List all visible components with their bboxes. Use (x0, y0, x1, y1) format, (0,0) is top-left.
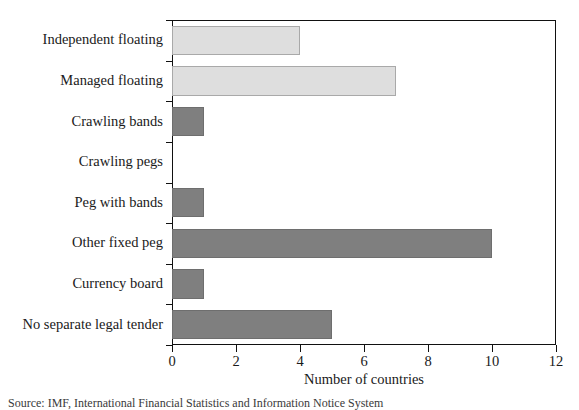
x-axis-tick-label: 0 (152, 352, 192, 370)
bar-row (172, 188, 556, 217)
y-axis-tick (166, 142, 172, 143)
x-axis-tick-label: 8 (408, 352, 448, 370)
x-axis-tick-label: 6 (344, 352, 384, 370)
bar-row (172, 26, 556, 55)
y-axis-tick (166, 20, 172, 21)
bar-peg-with-bands (172, 188, 204, 217)
x-axis-tick-label: 10 (472, 352, 512, 370)
category-label: Independent floating (0, 31, 163, 47)
x-axis-title: Number of countries (172, 371, 556, 388)
x-axis-tick (556, 345, 557, 352)
bar-currency-board (172, 269, 204, 298)
y-axis-tick (166, 101, 172, 102)
x-axis-tick-label: 4 (280, 352, 320, 370)
x-axis-tick (300, 345, 301, 352)
x-axis-tick (172, 345, 173, 352)
bar-managed-floating (172, 66, 396, 95)
bar-row (172, 107, 556, 136)
category-label: Other fixed peg (0, 234, 163, 250)
bar-other-fixed-peg (172, 229, 492, 258)
bar-row (172, 229, 556, 258)
y-axis-tick (166, 304, 172, 305)
bar-independent-floating (172, 26, 300, 55)
y-axis-tick (166, 264, 172, 265)
x-axis-tick (236, 345, 237, 352)
bar-row (172, 66, 556, 95)
bar-no-separate-legal-tender (172, 310, 332, 339)
x-axis-tick (492, 345, 493, 352)
y-axis-tick (166, 61, 172, 62)
category-label: Crawling pegs (0, 153, 163, 169)
category-label: Crawling bands (0, 113, 163, 129)
x-axis-tick-label: 12 (536, 352, 576, 370)
x-axis-tick-label: 2 (216, 352, 256, 370)
source-note: Source: IMF, International Financial Sta… (8, 396, 568, 410)
bar-row (172, 148, 556, 177)
y-axis-tick (166, 223, 172, 224)
x-axis-tick (428, 345, 429, 352)
category-label: Currency board (0, 275, 163, 291)
category-label: Peg with bands (0, 194, 163, 210)
bar-crawling-bands (172, 107, 204, 136)
category-label: Managed floating (0, 72, 163, 88)
category-label: No separate legal tender (0, 316, 163, 332)
y-axis-tick (166, 183, 172, 184)
bar-row (172, 269, 556, 298)
bar-row (172, 310, 556, 339)
x-axis-tick (364, 345, 365, 352)
